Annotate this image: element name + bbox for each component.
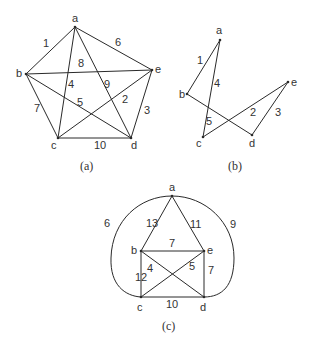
vertex-b-dot <box>140 250 143 253</box>
edge-weight: 11 <box>190 218 201 230</box>
edge-weight: 10 <box>166 298 178 310</box>
vertex-label: c <box>196 137 202 149</box>
edge-weight: 2 <box>122 93 128 105</box>
edge-weight: 1 <box>43 37 49 49</box>
edge-weight: 7 <box>208 264 214 276</box>
figure-a: a b c d e 1 6 8 4 9 5 2 3 7 10 (a) <box>16 12 161 173</box>
vertex-label: b <box>131 244 137 256</box>
edge-weight: 4 <box>68 78 74 90</box>
vertex-c-dot <box>57 137 60 140</box>
vertex-label: b <box>16 67 22 79</box>
vertex-label: e <box>207 244 213 256</box>
vertex-e-dot <box>287 81 290 84</box>
edge-weight: 7 <box>34 102 40 114</box>
vertex-label: e <box>291 76 297 88</box>
edge-b-e <box>26 70 152 74</box>
vertex-label: d <box>131 139 137 151</box>
vertex-b-dot <box>25 73 28 76</box>
graph-svg: a b c d e 1 6 8 4 9 5 2 3 7 10 (a) <box>0 0 309 346</box>
edge-e-d <box>252 82 288 135</box>
vertex-c-dot <box>202 136 205 139</box>
vertex-a-dot <box>171 195 174 198</box>
figure-b: a b c d e 1 4 5 2 3 (b) <box>179 24 297 173</box>
graph-figure: a b c d e 1 6 8 4 9 5 2 3 7 10 (a) <box>0 0 309 346</box>
edge-weight: 5 <box>206 115 212 127</box>
edge-weight: 5 <box>77 96 83 108</box>
edge-weight: 6 <box>104 217 110 229</box>
vertex-c-dot <box>140 296 143 299</box>
edge-weight: 8 <box>78 57 84 69</box>
figure-c: a b c d e 13 11 7 4 5 12 7 10 6 9 (c) <box>104 181 236 333</box>
vertex-d-dot <box>203 296 206 299</box>
edge-weight: 13 <box>146 217 158 229</box>
edge-weight: 3 <box>144 104 150 116</box>
caption-c: (c) <box>162 319 175 333</box>
caption-a: (a) <box>80 159 93 173</box>
vertex-label: a <box>72 12 79 24</box>
edge-weight: 5 <box>189 260 195 272</box>
vertex-d-dot <box>251 134 254 137</box>
vertex-b-dot <box>186 93 189 96</box>
vertex-e-dot <box>203 250 206 253</box>
edge-weight: 12 <box>135 271 147 283</box>
edge-weight: 10 <box>94 139 106 151</box>
vertex-label: a <box>169 181 176 193</box>
edge-weight: 4 <box>147 262 153 274</box>
edge-weight: 7 <box>169 237 175 249</box>
vertex-label: e <box>155 63 161 75</box>
edge-b-d <box>187 94 252 135</box>
edge-weight: 3 <box>275 106 281 118</box>
vertex-label: d <box>200 301 206 313</box>
vertex-label: a <box>216 24 223 36</box>
caption-b: (b) <box>228 159 242 173</box>
vertex-label: c <box>137 301 143 313</box>
edge-weight: 9 <box>230 218 236 230</box>
edge-a-b <box>26 27 75 74</box>
vertex-label: d <box>249 137 255 149</box>
edge-a-e <box>75 27 152 70</box>
edge-weight: 6 <box>115 36 121 48</box>
edge-weight: 1 <box>197 54 203 66</box>
edge-weight: 4 <box>214 77 220 89</box>
vertex-a-dot <box>219 39 222 42</box>
vertex-a-dot <box>74 26 77 29</box>
vertex-e-dot <box>151 69 154 72</box>
vertex-label: c <box>51 139 57 151</box>
edge-weight: 9 <box>104 78 110 90</box>
vertex-label: b <box>179 88 185 100</box>
edge-weight: 2 <box>250 106 256 118</box>
